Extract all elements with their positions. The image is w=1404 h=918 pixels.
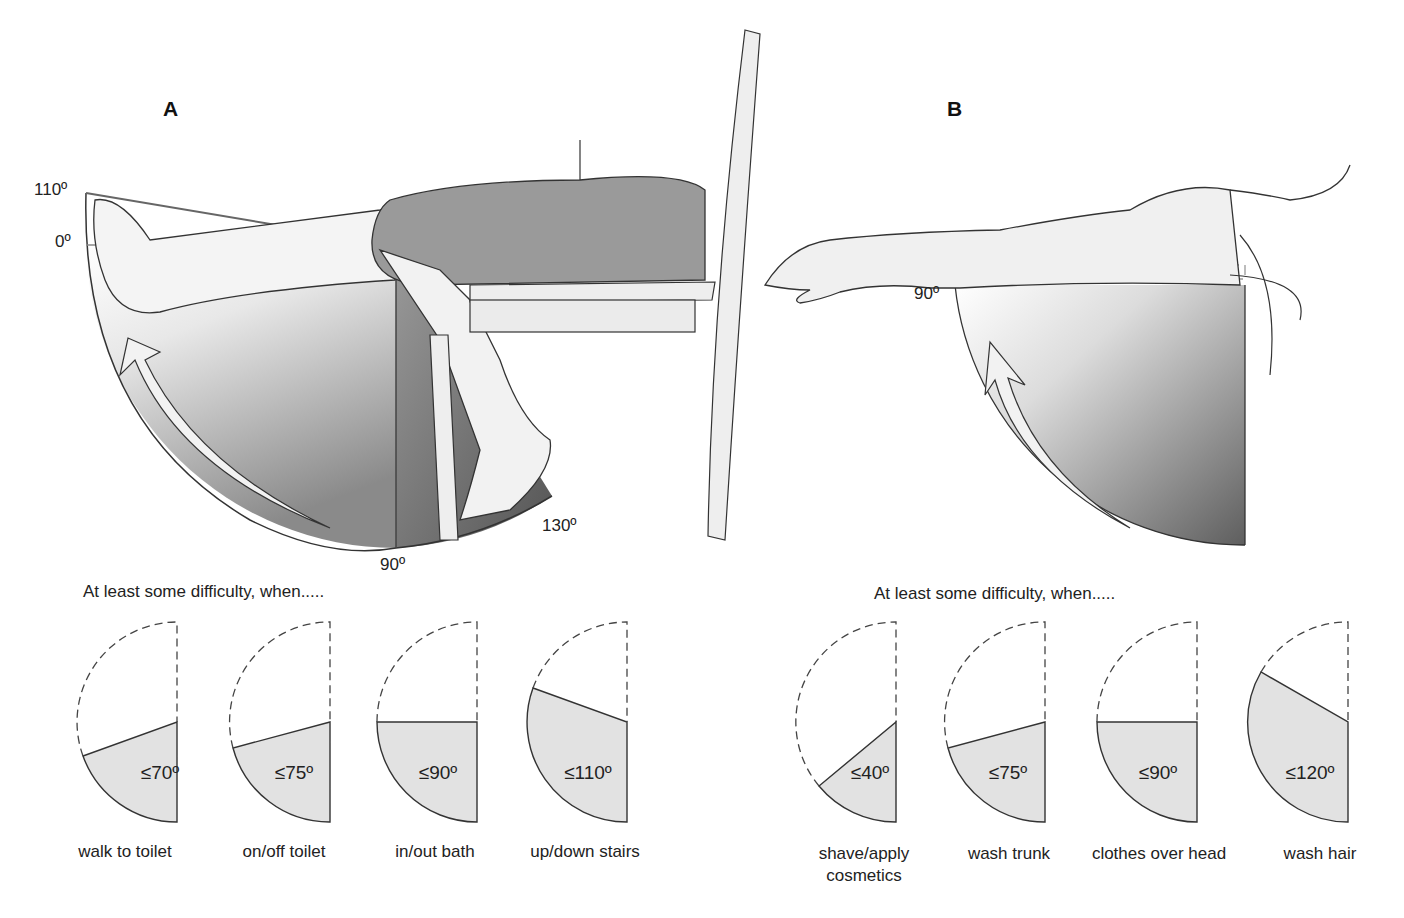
- wedge-value: ≤75º: [254, 762, 334, 784]
- wedge-value: ≤40º: [830, 762, 910, 784]
- caption: wash trunk: [924, 843, 1094, 865]
- wedge-value: ≤90º: [1118, 762, 1198, 784]
- angle-label-90: 90º: [380, 555, 405, 575]
- caption: on/off toilet: [199, 841, 369, 863]
- wedge-value: ≤120º: [1270, 762, 1350, 784]
- wedge-value: ≤75º: [968, 762, 1048, 784]
- wedge-shave-apply-cosmetics: [796, 622, 896, 822]
- panel-b-heading: At least some difficulty, when.....: [874, 584, 1115, 604]
- wedge-clothes-over-head: [1097, 622, 1197, 822]
- wedge-walk-to-toilet: [77, 622, 177, 822]
- abduction-sector-shade: [955, 285, 1245, 545]
- wedge-wash-hair: [1248, 622, 1348, 822]
- wedge-wash-trunk: [945, 622, 1045, 822]
- angle-label-110: 110º: [34, 180, 67, 200]
- wedge-value: ≤110º: [548, 762, 628, 784]
- angle-label-arm-90: 90º: [914, 284, 939, 304]
- angle-label-0: 0º: [55, 232, 71, 252]
- caption: up/down stairs: [500, 841, 670, 863]
- caption-line: cosmetics: [779, 865, 949, 887]
- caption: clothes over head: [1074, 843, 1244, 865]
- panel-b-letter: B: [947, 97, 962, 121]
- chair: [470, 282, 715, 302]
- knee-range-diagram: [86, 30, 760, 551]
- wedge-value: ≤70º: [120, 762, 200, 784]
- caption: in/out bath: [350, 841, 520, 863]
- caption: walk to toilet: [40, 841, 210, 863]
- caption: wash hair: [1235, 843, 1404, 865]
- angle-label-130: 130º: [542, 516, 577, 536]
- wedge-on-off-toilet: [230, 622, 330, 822]
- wedge-value: ≤90º: [398, 762, 478, 784]
- shoulder-range-diagram: [765, 165, 1350, 545]
- wedge-up-down-stairs: [527, 622, 627, 822]
- wedge-in-out-bath: [377, 622, 477, 822]
- panel-a-letter: A: [163, 97, 178, 121]
- panel-a-heading: At least some difficulty, when.....: [83, 582, 324, 602]
